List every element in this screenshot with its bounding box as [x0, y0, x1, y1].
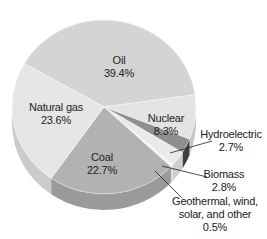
label-biomass-pct: 2.8% — [204, 181, 245, 194]
label-natural-gas: Natural gas 23.6% — [29, 101, 83, 127]
label-hydroelectric-pct: 2.7% — [200, 141, 262, 154]
label-coal-pct: 22.7% — [87, 164, 117, 177]
label-oil-name: Oil — [104, 54, 134, 67]
label-biomass: Biomass 2.8% — [204, 168, 245, 194]
label-other-pct: 0.5% — [172, 221, 258, 234]
label-oil: Oil 39.4% — [104, 54, 134, 80]
label-nuclear: Nuclear 8.3% — [148, 112, 185, 138]
label-oil-pct: 39.4% — [104, 67, 134, 80]
label-nuclear-pct: 8.3% — [148, 125, 185, 138]
label-coal: Coal 22.7% — [87, 151, 117, 177]
label-coal-name: Coal — [87, 151, 117, 164]
label-other-name-line2: solar, and other — [172, 208, 258, 221]
label-nuclear-name: Nuclear — [148, 112, 185, 125]
label-natural-gas-pct: 23.6% — [29, 114, 83, 127]
pie-side-other — [171, 165, 173, 183]
label-biomass-name: Biomass — [204, 168, 245, 181]
label-hydroelectric-name: Hydroelectric — [200, 128, 262, 141]
label-other-name-line1: Geothermal, wind, — [172, 195, 258, 208]
label-hydroelectric: Hydroelectric 2.7% — [200, 128, 262, 154]
label-natural-gas-name: Natural gas — [29, 101, 83, 114]
label-other: Geothermal, wind, solar, and other 0.5% — [172, 195, 258, 234]
